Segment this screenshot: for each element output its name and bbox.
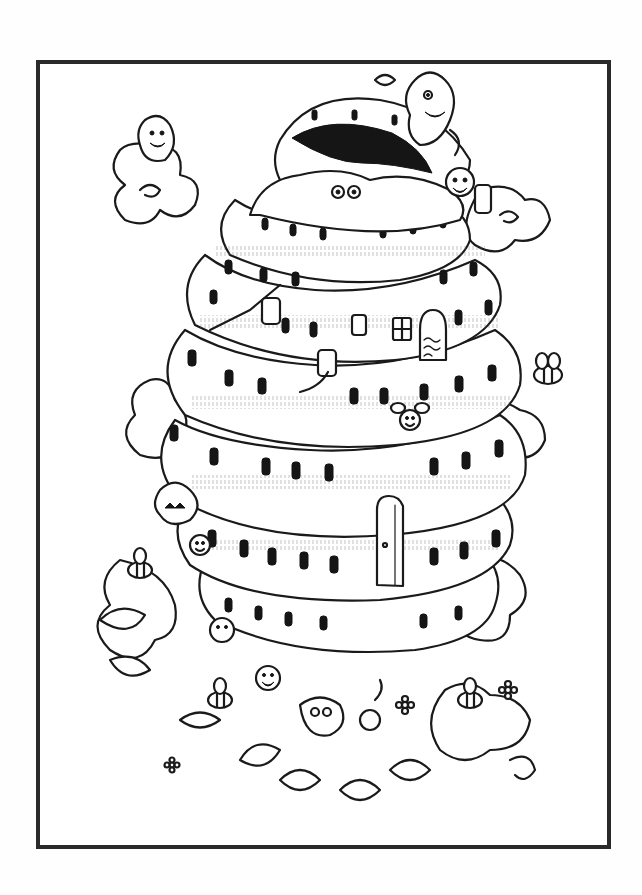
arched-doorway: [420, 310, 446, 360]
cross-window: [393, 318, 411, 340]
coloring-page: [0, 0, 642, 895]
tower-door: [377, 496, 403, 586]
beehive-illustration: [0, 0, 642, 895]
